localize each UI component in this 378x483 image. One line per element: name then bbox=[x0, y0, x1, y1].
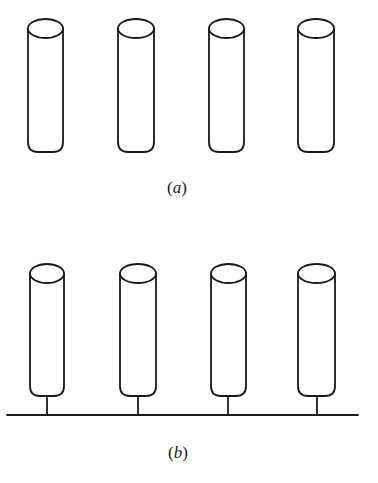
cylinder-body bbox=[28, 29, 63, 153]
caption-a: (a) bbox=[167, 178, 187, 198]
panel-a-isolated-cylinders bbox=[28, 19, 334, 152]
cylinder-body bbox=[120, 274, 156, 397]
cylinder bbox=[209, 19, 244, 152]
cylinder-top-ellipse bbox=[28, 19, 63, 38]
caption-a-letter: a bbox=[173, 178, 182, 197]
cylinder-top-ellipse bbox=[118, 19, 154, 38]
cylinder-top-ellipse bbox=[211, 264, 246, 283]
cylinder-top-ellipse bbox=[30, 264, 64, 283]
cylinder-body bbox=[30, 274, 64, 397]
caption-b-letter: b bbox=[174, 443, 183, 462]
cylinder-body bbox=[298, 274, 335, 397]
cylinder-top-ellipse bbox=[298, 19, 334, 38]
panel-b-connected-cylinders bbox=[7, 264, 358, 415]
cylinder bbox=[120, 264, 156, 396]
cylinder-top-ellipse bbox=[209, 19, 244, 38]
cylinder bbox=[298, 19, 334, 152]
cylinder-body bbox=[118, 29, 154, 153]
cylinder bbox=[118, 19, 154, 152]
cylinder-body bbox=[298, 29, 334, 153]
caption-b-close: ) bbox=[182, 443, 188, 462]
caption-b: (b) bbox=[168, 443, 188, 463]
caption-a-close: ) bbox=[181, 178, 187, 197]
cylinder-top-ellipse bbox=[298, 264, 335, 283]
diagram-figure bbox=[0, 0, 378, 483]
cylinder bbox=[211, 264, 246, 396]
cylinder-top-ellipse bbox=[120, 264, 156, 283]
cylinder bbox=[30, 264, 64, 396]
cylinder-body bbox=[211, 274, 246, 397]
cylinder bbox=[298, 264, 335, 396]
cylinder bbox=[28, 19, 63, 152]
cylinder-body bbox=[209, 29, 244, 153]
